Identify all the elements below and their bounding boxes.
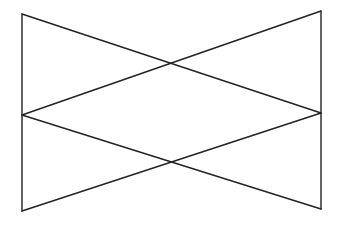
diagram-background <box>0 0 342 226</box>
bowtie-diagram <box>0 0 342 226</box>
